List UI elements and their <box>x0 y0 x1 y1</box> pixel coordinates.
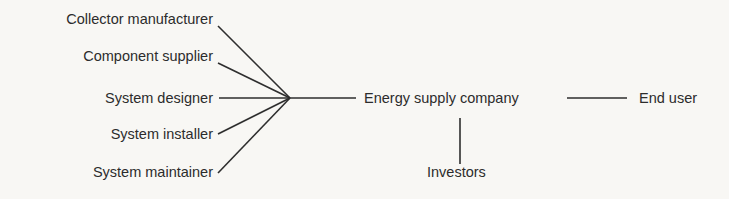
node-component-supplier: Component supplier <box>83 48 213 64</box>
line-maintainer <box>218 98 290 173</box>
line-component <box>218 63 290 98</box>
node-end-user: End user <box>639 90 697 106</box>
node-system-designer: System designer <box>105 90 213 106</box>
node-system-maintainer: System maintainer <box>93 164 213 180</box>
line-installer <box>218 98 290 134</box>
node-energy-supply-company: Energy supply company <box>364 90 519 106</box>
node-investors: Investors <box>427 164 486 180</box>
node-collector-manufacturer: Collector manufacturer <box>66 11 213 27</box>
node-system-installer: System installer <box>111 126 213 142</box>
line-collector <box>218 26 290 98</box>
